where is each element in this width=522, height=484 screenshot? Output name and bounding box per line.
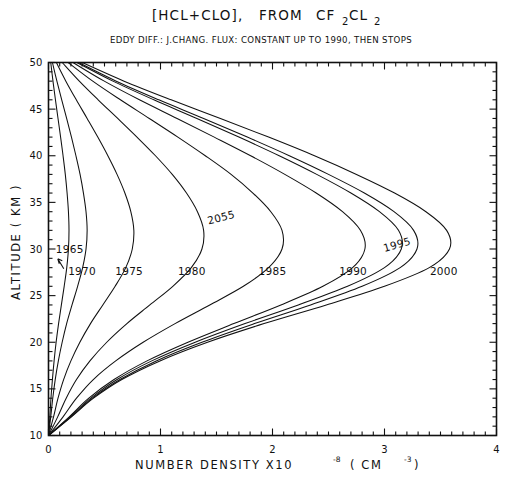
y-axis-ticks — [49, 63, 497, 436]
curve-label: 1965 — [56, 243, 84, 255]
chart-svg: [HCL+CLO], FROM CF 2 CL 2 EDDY DIFF.: J.… — [0, 0, 522, 484]
y-axis-tick-labels: 101520253035404550 — [29, 57, 42, 441]
y-tick-label: 20 — [29, 337, 42, 348]
curve-label: 1980 — [178, 265, 206, 277]
y-tick-label: 40 — [29, 150, 42, 161]
plot-frame — [49, 63, 497, 436]
x-axis-title: NUMBER DENSITY X10 -8 ( CM -3 ) — [135, 455, 420, 472]
chart-title-from: FROM — [259, 7, 303, 23]
y-tick-label: 10 — [29, 430, 42, 441]
chart-subtitle: EDDY DIFF.: J.CHANG. FLUX: CONSTANT UP T… — [110, 35, 412, 45]
y-tick-label: 35 — [29, 197, 42, 208]
y-tick-label: 15 — [29, 383, 42, 394]
figure-container: [HCL+CLO], FROM CF 2 CL 2 EDDY DIFF.: J.… — [0, 0, 522, 484]
x-tick-label: 0 — [45, 444, 52, 455]
curve-label: 2055 — [206, 208, 236, 226]
chart-title-species-b: CL — [349, 7, 368, 23]
y-axis-title: ALTITUDE ( KM ) — [9, 184, 23, 300]
y-tick-label: 25 — [29, 290, 42, 301]
chart-title: [HCL+CLO], FROM CF 2 CL 2 — [152, 7, 380, 27]
curve-label: 1970 — [68, 265, 96, 277]
x-axis-unit-exponent: -3 — [404, 455, 412, 464]
x-tick-label: 1 — [157, 444, 164, 455]
curve-annotations: 196519701975198019851990199520002055 — [56, 208, 458, 277]
chart-title-lead: [HCL+CLO], — [152, 7, 243, 23]
chart-title-species-a-subscript: 2 — [342, 16, 348, 27]
data-curve — [49, 63, 418, 436]
curve-label: 1975 — [115, 265, 143, 277]
curve-label: 1985 — [259, 265, 287, 277]
x-tick-label: 3 — [381, 444, 388, 455]
x-axis-unit-open: ( CM — [350, 458, 383, 472]
x-axis-tick-labels: 01234 — [45, 444, 500, 455]
x-axis-ticks — [49, 63, 497, 436]
x-axis-title-exponent: -8 — [333, 455, 341, 464]
y-tick-label: 30 — [29, 244, 42, 255]
chart-title-species-b-subscript: 2 — [374, 16, 380, 27]
x-tick-label: 4 — [493, 444, 500, 455]
data-curve — [49, 63, 366, 436]
x-tick-label: 2 — [269, 444, 276, 455]
curve-label: 1995 — [382, 235, 412, 254]
y-tick-label: 50 — [29, 57, 42, 68]
chart-title-species-a: CF — [316, 7, 335, 23]
curve-label-pointer-arrow — [58, 259, 64, 269]
data-curve — [49, 63, 403, 436]
curve-label: 1990 — [339, 265, 367, 277]
y-tick-label: 45 — [29, 104, 42, 115]
x-axis-title-main: NUMBER DENSITY X10 — [135, 458, 293, 472]
curve-label: 2000 — [430, 265, 458, 277]
data-curve — [49, 63, 284, 436]
x-axis-unit-close: ) — [414, 458, 420, 472]
